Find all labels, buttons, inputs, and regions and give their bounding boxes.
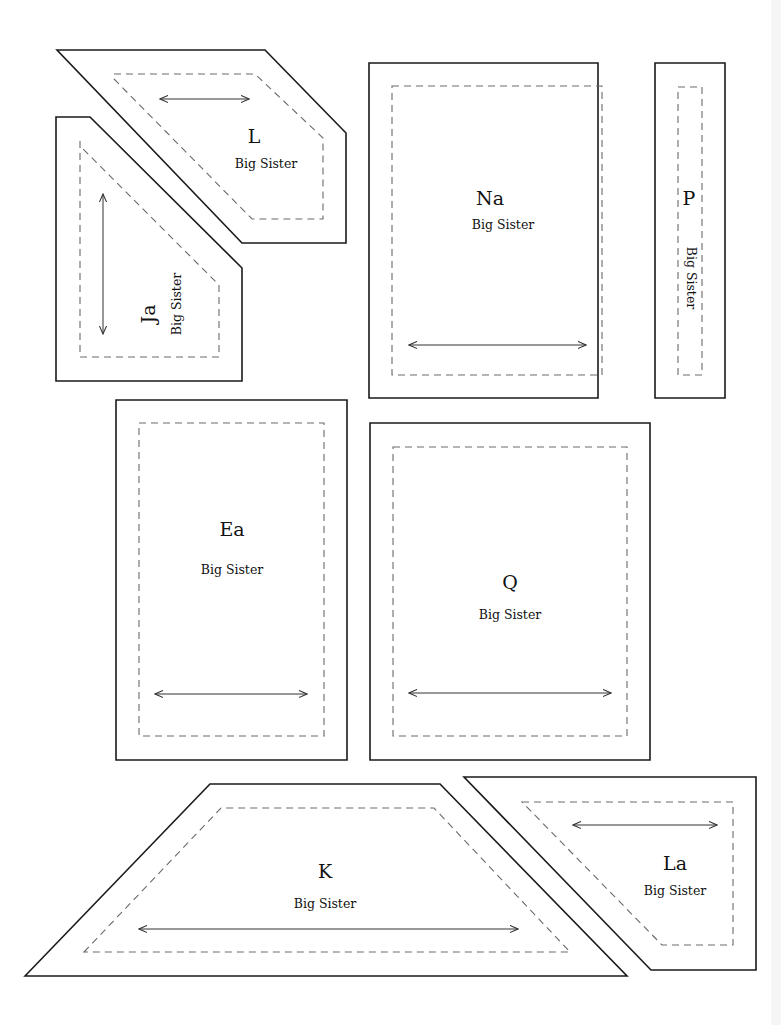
piece-subtitle: Big Sister: [684, 247, 699, 310]
piece-letter: Q: [502, 571, 518, 593]
piece-letter: P: [683, 187, 696, 209]
piece-subtitle: Big Sister: [644, 883, 707, 898]
piece-subtitle: Big Sister: [294, 896, 357, 911]
piece-letter: Ea: [219, 518, 244, 540]
piece-letter: K: [318, 860, 333, 882]
piece-letter: L: [248, 125, 261, 147]
piece-na: Na Big Sister: [369, 63, 602, 398]
cut-line: [655, 63, 725, 398]
piece-ea: Ea Big Sister: [116, 400, 347, 760]
piece-letter: La: [663, 852, 687, 874]
piece-p: P Big Sister: [655, 63, 725, 398]
piece-subtitle: Big Sister: [201, 562, 264, 577]
piece-q: Q Big Sister: [370, 423, 650, 760]
piece-letter: Ja: [137, 305, 159, 326]
cut-line: [116, 400, 347, 760]
piece-subtitle: Big Sister: [235, 156, 298, 171]
piece-subtitle: Big Sister: [472, 217, 535, 232]
piece-subtitle: Big Sister: [169, 273, 184, 336]
piece-letter: Na: [476, 187, 504, 209]
piece-subtitle: Big Sister: [479, 607, 542, 622]
pattern-sheet: L Big Sister Ja Big Sister Na Big Sister…: [0, 0, 781, 1025]
